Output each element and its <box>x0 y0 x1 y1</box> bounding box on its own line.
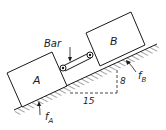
connecting-bar <box>60 47 93 71</box>
block-b-label: B <box>110 35 118 48</box>
friction-a-label: fA <box>45 111 54 125</box>
friction-b-label: fB <box>138 70 147 84</box>
incline-diagram: A B Bar 15 8 fA fB <box>0 0 166 130</box>
run-label: 15 <box>83 96 95 106</box>
rise-label: 8 <box>120 76 126 86</box>
block-a-label: A <box>32 74 41 87</box>
bar-label: Bar <box>44 38 62 49</box>
block-a: A <box>7 52 67 107</box>
